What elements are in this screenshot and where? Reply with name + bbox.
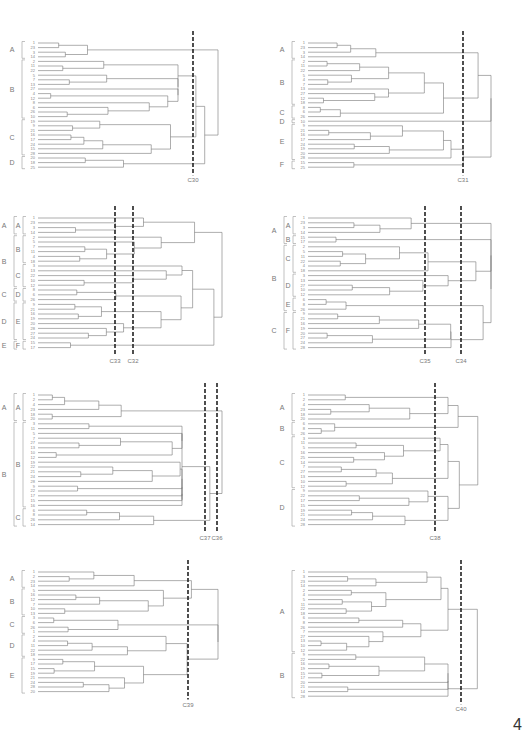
group-label: C [279, 109, 284, 116]
dendrogram-link [54, 662, 94, 671]
group-bracket [292, 42, 295, 59]
dendrogram-link [38, 682, 83, 687]
group-label: C [9, 621, 14, 628]
dendrogram-link [144, 644, 188, 675]
dendrogram-link [38, 595, 76, 600]
dendrogram-link [38, 135, 71, 140]
dendrogram-link [38, 75, 107, 82]
dendrogram-link [38, 510, 87, 515]
group-label: C [1, 291, 6, 298]
group-bracket [22, 617, 25, 634]
group-label: F [280, 161, 284, 168]
dendrogram-link [38, 443, 79, 448]
group-label: D [9, 642, 14, 649]
dendrogram-link [38, 271, 166, 279]
dendrogram-link [38, 141, 103, 149]
group-bracket [23, 303, 26, 340]
group-bracket [292, 490, 295, 527]
group-label: B [280, 672, 285, 679]
group-label: A [286, 222, 291, 229]
group-bracket [14, 422, 17, 526]
cut-label: C32 [127, 358, 139, 364]
dendrogram-link [38, 343, 71, 348]
dendrogram-link [107, 79, 178, 96]
dendrogram-link [448, 461, 459, 508]
dendrogram-link [38, 107, 108, 114]
dendrogram-link [38, 290, 77, 295]
dendrogram-link [351, 593, 386, 607]
group-label: C [279, 459, 284, 466]
group-bracket [292, 106, 295, 118]
dendrogram-link [308, 687, 348, 692]
dendrogram-link [78, 469, 182, 489]
dendrogram-link [308, 61, 327, 66]
group-label: A [16, 222, 21, 229]
cut-label: C31 [457, 177, 469, 183]
group-label: D [285, 282, 290, 289]
group-bracket [22, 589, 25, 615]
dendrogram-link [335, 406, 458, 428]
dendrogram-link [308, 620, 403, 627]
dendrogram-link [483, 255, 491, 322]
dendrogram-link [346, 306, 483, 340]
group-bracket [293, 313, 296, 350]
group-label: B [280, 79, 285, 86]
dendrogram-link [38, 276, 133, 283]
group-bracket [22, 658, 25, 693]
group-bracket [292, 653, 295, 697]
dendrogram-link [38, 397, 65, 404]
dendrogram-link [308, 513, 373, 520]
dendrogram-panel-2: 1233142112254713271218862610921161724192… [266, 0, 532, 195]
dendrogram-link [351, 67, 388, 79]
dendrogram-link [38, 223, 115, 230]
dendrogram-svg: 1242318206826311516251472713101292217151… [266, 375, 532, 555]
dendrogram-link [38, 328, 106, 335]
group-bracket [23, 341, 26, 349]
dendrogram-link [38, 280, 84, 285]
leaf-label: 28 [301, 694, 306, 699]
dendrogram-link [38, 314, 78, 319]
group-label: A [280, 404, 285, 411]
group-label: C [9, 134, 14, 141]
dendrogram-link [372, 324, 450, 339]
dendrogram-link [308, 336, 372, 343]
dendrogram-link [38, 126, 73, 131]
dendrogram-link [38, 52, 65, 57]
dendrogram-link [118, 625, 218, 659]
dendrogram-link [38, 137, 84, 144]
dendrogram-link [38, 121, 100, 128]
dendrogram-link [38, 513, 120, 520]
dendrogram-link [308, 302, 346, 309]
group-label: B [272, 275, 277, 282]
group-bracket [22, 120, 25, 155]
group-label: A [280, 46, 285, 53]
dendrogram-link [38, 678, 125, 688]
dendrogram-link [308, 405, 369, 412]
dendrogram-link [38, 467, 113, 474]
dendrogram-link [38, 401, 99, 409]
group-bracket [293, 217, 296, 234]
group-label: C [285, 255, 290, 262]
dendrogram-link [38, 572, 94, 579]
group-bracket [292, 161, 295, 169]
dendrogram-link [308, 572, 427, 582]
dendrogram-link [308, 496, 359, 501]
group-bracket [292, 394, 295, 421]
dendrogram-link [308, 64, 360, 71]
dendrogram-link [308, 247, 400, 259]
dendrogram-link [308, 107, 320, 112]
dendrogram-link [38, 228, 76, 233]
dendrogram-link [308, 163, 354, 168]
dendrogram-link [75, 307, 102, 317]
dendrogram-link [104, 65, 178, 87]
group-bracket [22, 635, 25, 656]
dendrogram-svg: 1233142112257132741286261019921161724152… [0, 0, 266, 195]
dendrogram-link [38, 395, 52, 400]
dendrogram-link [38, 158, 85, 163]
group-bracket [293, 274, 296, 296]
dendrogram-link [95, 666, 144, 683]
dendrogram-link [340, 254, 365, 264]
dendrogram-link [386, 577, 441, 599]
dendrogram-link [346, 473, 392, 484]
leaf-label: 14 [31, 522, 36, 527]
